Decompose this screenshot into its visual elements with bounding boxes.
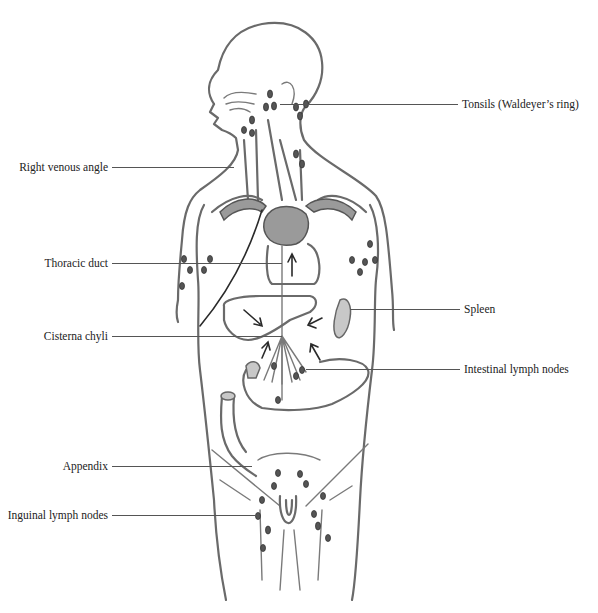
label-appendix: Appendix xyxy=(63,459,108,473)
leader-intestinal-lymph-nodes xyxy=(306,369,460,370)
leader-tonsils xyxy=(280,104,458,105)
leader-cisterna-chyli xyxy=(112,336,282,337)
label-inguinal-lymph-nodes: Inguinal lymph nodes xyxy=(8,508,108,522)
leader-right-venous-angle xyxy=(112,167,234,168)
leader-spleen xyxy=(350,309,460,310)
label-spleen: Spleen xyxy=(464,302,495,316)
label-tonsils: Tonsils (Waldeyer’s ring) xyxy=(462,97,579,111)
leader-thoracic-duct xyxy=(112,263,282,264)
label-intestinal-lymph-nodes: Intestinal lymph nodes xyxy=(464,362,569,376)
leader-inguinal-lymph-nodes xyxy=(112,515,258,516)
label-cisterna-chyli: Cisterna chyli xyxy=(44,329,108,343)
leader-appendix xyxy=(112,466,252,467)
lymphatic-system-diagram: Right venous angle Thoracic duct Cistern… xyxy=(0,0,598,613)
label-right-venous-angle: Right venous angle xyxy=(19,160,108,174)
label-thoracic-duct: Thoracic duct xyxy=(44,256,108,270)
